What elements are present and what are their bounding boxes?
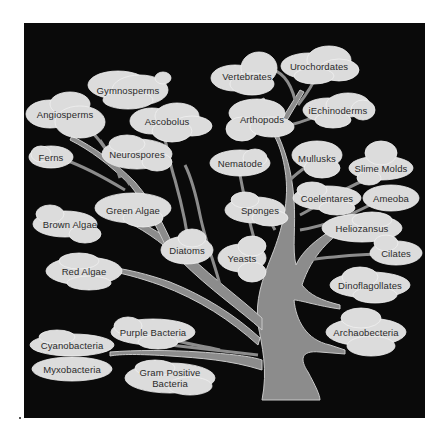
node-label-nematode: Nematode [218, 158, 263, 169]
node-label-mullusks: Mullusks [298, 153, 336, 164]
node-label-ascobolus: Ascobolus [145, 116, 190, 127]
node-label-cilates: Cilates [381, 248, 411, 259]
node-label-red-algae: Red Algae [62, 266, 107, 277]
node-label-slime-molds: Slime Molds [355, 163, 408, 174]
node-label-urochordates: Urochordates [290, 61, 348, 72]
node-label-angiosperms: Angiosperms [37, 109, 94, 120]
node-label-sponges: Sponges [241, 205, 279, 216]
node-label-ferns: Ferns [39, 152, 64, 163]
node-label-vertebrates: Vertebrates [222, 71, 272, 82]
stray-dot [19, 417, 21, 419]
node-label-diatoms: Diatoms [169, 245, 205, 256]
node-label-gymnosperms: Gymnosperms [97, 85, 160, 96]
node-label-arthopods: Arthopods [240, 114, 284, 125]
node-label-heliozansus: Heliozansus [336, 223, 389, 234]
node-label-green-algae: Green Algae [106, 205, 160, 216]
node-label-yeasts: Yeasts [228, 253, 257, 264]
node-label-myxobacteria: Myxobacteria [43, 364, 101, 375]
node-label-ameoba: Ameoba [373, 193, 409, 204]
node-label-purple-bacteria: Purple Bacteria [120, 327, 186, 338]
node-label-gram-positive-bacteria: Gram PositiveBacteria [140, 367, 201, 389]
node-label-brown-algae: Brown Algae [43, 219, 97, 230]
node-label-dinoflagollates: Dinoflagollates [338, 280, 402, 291]
node-label-archaobecteria: Archaobecteria [333, 327, 398, 338]
node-label-cyanobacteria: Cyanobacteria [41, 340, 104, 351]
node-label-echinoderms: iEchinoderms [309, 105, 368, 116]
node-label-neurospores: Neurospores [109, 149, 165, 160]
node-label-coelentares: Coelentares [301, 193, 353, 204]
